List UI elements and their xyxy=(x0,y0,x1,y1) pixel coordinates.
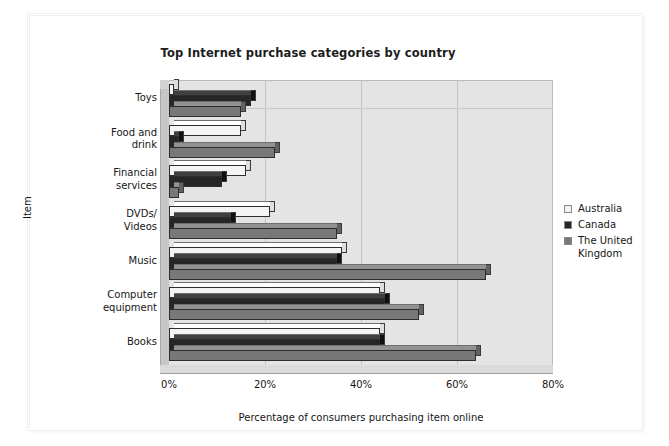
bar-side-face xyxy=(380,282,385,293)
y-tick-line: Music xyxy=(79,255,157,268)
chart-page: Top Internet purchase categories by coun… xyxy=(0,0,669,446)
gridline-60 xyxy=(457,80,458,365)
plot-floor xyxy=(160,365,553,374)
y-tick-line: Videos xyxy=(79,221,157,234)
y-tick-line: Computer xyxy=(79,289,157,302)
y-axis-title: Item xyxy=(22,196,33,219)
legend-item[interactable]: Australia xyxy=(564,202,669,215)
legend-label: The UnitedKingdom xyxy=(578,234,633,260)
legend-item[interactable]: The UnitedKingdom xyxy=(564,234,669,260)
bar-top-face xyxy=(174,293,390,298)
bar-side-face xyxy=(231,212,236,223)
bar-side-face xyxy=(380,323,385,334)
y-tick-line: drink xyxy=(79,139,157,152)
chart-title: Top Internet purchase categories by coun… xyxy=(28,46,588,60)
y-tick-line: Toys xyxy=(79,92,157,105)
bar-top-face xyxy=(174,101,246,106)
bar-face xyxy=(169,228,337,239)
y-tick-label: DVDs/Videos xyxy=(79,208,157,233)
legend-swatch-icon xyxy=(564,205,572,213)
legend-label-line: The United xyxy=(578,234,633,247)
bar-face xyxy=(169,309,419,320)
legend-label: Australia xyxy=(578,202,622,215)
bar-top-face xyxy=(174,282,385,287)
y-tick-line: equipment xyxy=(79,302,157,315)
plot-area xyxy=(169,80,553,373)
legend-label-line: Canada xyxy=(578,218,616,231)
legend-swatch-icon xyxy=(564,237,572,245)
bar-side-face xyxy=(251,90,256,101)
legend-swatch-icon xyxy=(564,221,572,229)
bar-top-face xyxy=(174,223,342,228)
bar-top-face xyxy=(174,345,481,350)
bar-top-face xyxy=(174,334,385,339)
bar-side-face xyxy=(275,142,280,153)
chart-legend: AustraliaCanadaThe UnitedKingdom xyxy=(564,202,669,263)
bar-side-face xyxy=(337,223,342,234)
y-tick-line: Food and xyxy=(79,127,157,140)
bar-side-face xyxy=(222,171,227,182)
bar-face xyxy=(169,269,486,280)
bar-side-face xyxy=(385,293,390,304)
x-tick-label: 80% xyxy=(531,379,575,390)
bar-side-face xyxy=(337,253,342,264)
y-tick-label: Music xyxy=(79,255,157,268)
x-tick-label: 20% xyxy=(243,379,287,390)
y-tick-label: Food anddrink xyxy=(79,127,157,152)
legend-item[interactable]: Canada xyxy=(564,218,669,231)
bar-top-face xyxy=(174,264,491,269)
bar-side-face xyxy=(486,264,491,275)
x-tick-label: 40% xyxy=(339,379,383,390)
bar xyxy=(169,350,476,361)
y-tick-label: Books xyxy=(79,336,157,349)
y-tick-label: Computerequipment xyxy=(79,289,157,314)
bar-side-face xyxy=(179,131,184,142)
y-tick-line: Financial xyxy=(79,167,157,180)
legend-label-line: Kingdom xyxy=(578,247,633,260)
bar-top-face xyxy=(174,142,280,147)
x-tick-label: 60% xyxy=(435,379,479,390)
bar-face xyxy=(169,187,179,198)
bar-top-face xyxy=(174,253,342,258)
bar-face xyxy=(169,106,241,117)
x-tick-label: 0% xyxy=(147,379,191,390)
bar-side-face xyxy=(246,160,251,171)
bar-side-face xyxy=(342,242,347,253)
bar xyxy=(169,269,486,280)
bar-face xyxy=(169,350,476,361)
legend-label-line: Australia xyxy=(578,202,622,215)
bar-top-face xyxy=(174,212,236,217)
y-tick-label: Toys xyxy=(79,92,157,105)
bar-side-face xyxy=(476,345,481,356)
bar-side-face xyxy=(419,304,424,315)
bar-top-face xyxy=(174,323,385,328)
bar-face xyxy=(169,147,275,158)
bar-top-face xyxy=(174,201,275,206)
bar xyxy=(169,228,337,239)
bar-side-face xyxy=(179,182,184,193)
bar xyxy=(169,187,179,198)
bar-top-face xyxy=(174,242,347,247)
bar xyxy=(169,147,275,158)
y-tick-line: Books xyxy=(79,336,157,349)
bar xyxy=(169,106,241,117)
x-axis-title: Percentage of consumers purchasing item … xyxy=(169,412,553,423)
y-tick-label: Financialservices xyxy=(79,167,157,192)
y-tick-line: DVDs/ xyxy=(79,208,157,221)
legend-label: Canada xyxy=(578,218,616,231)
bar-top-face xyxy=(174,90,256,95)
y-tick-line: services xyxy=(79,180,157,193)
plot-left-wall xyxy=(160,89,169,374)
bar-top-face xyxy=(174,160,251,165)
bar-top-face xyxy=(174,120,246,125)
bar-top-face xyxy=(174,171,227,176)
chart-card: Top Internet purchase categories by coun… xyxy=(28,14,642,430)
bar-side-face xyxy=(270,201,275,212)
bar-side-face xyxy=(380,334,385,345)
bar xyxy=(169,309,419,320)
bar-side-face xyxy=(174,79,179,90)
bar-top-face xyxy=(174,304,424,309)
bar-side-face xyxy=(241,120,246,131)
bar-side-face xyxy=(241,101,246,112)
